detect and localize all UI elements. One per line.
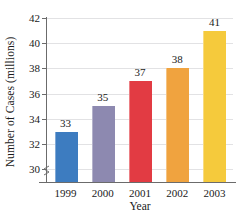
bar [166, 68, 189, 182]
y-axis-title: Number of Cases (millions) [2, 7, 18, 197]
bar-value-label: 33 [49, 118, 83, 129]
bar-group: 38 [166, 18, 188, 182]
bar-value-label: 38 [160, 54, 194, 65]
bar-group: 37 [129, 18, 151, 182]
x-axis-tick-label: 2003 [194, 187, 234, 199]
y-axis-tick-label: 38 [29, 63, 40, 74]
x-axis-line [39, 182, 236, 183]
bar [55, 132, 78, 182]
bar-group: 35 [92, 18, 114, 182]
x-axis-tick-label: 2001 [120, 187, 160, 199]
bar-value-label: 41 [197, 17, 231, 28]
x-axis-tick-label: 1999 [46, 187, 86, 199]
bars-group: 3335373841 [47, 18, 233, 182]
bar [203, 31, 226, 182]
x-axis-tick-label: 2002 [157, 187, 197, 199]
bar-group: 41 [203, 18, 225, 182]
y-axis-tick-label: 32 [29, 139, 40, 150]
bar-value-label: 35 [86, 92, 120, 103]
y-axis-tick-label: 36 [29, 88, 40, 99]
plot-area: 30323436384042 3335373841 19992000200120… [47, 18, 233, 182]
bar-group: 33 [55, 18, 77, 182]
y-axis-tick-label: 34 [29, 113, 40, 124]
y-axis-tick-label: 40 [29, 38, 40, 49]
x-axis-tick-label: 2000 [83, 187, 123, 199]
y-axis-tick-label: 42 [29, 13, 40, 24]
y-axis-tick-label: 30 [29, 164, 40, 175]
bar [92, 106, 115, 182]
bar-value-label: 37 [123, 67, 157, 78]
bar-chart-figure: Number of Cases (millions) 3032343638404… [0, 0, 241, 221]
bar [129, 81, 152, 182]
x-axis-title: Year [47, 200, 233, 213]
